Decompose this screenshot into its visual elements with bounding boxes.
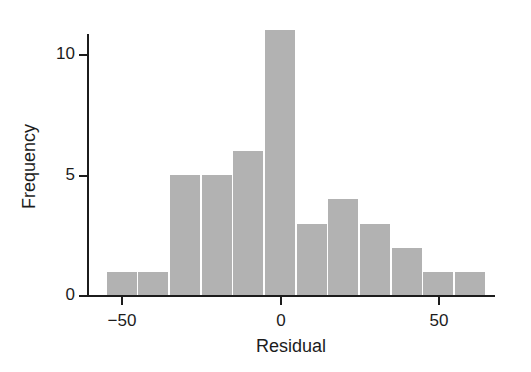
histogram-bar — [107, 272, 137, 296]
x-tick-0 — [280, 297, 282, 305]
histogram-bar — [170, 175, 200, 296]
y-tick-label-5: 5 — [41, 166, 75, 183]
x-axis-line — [87, 295, 495, 297]
y-tick-0 — [79, 295, 87, 297]
histogram-bar — [328, 199, 358, 296]
y-tick-10 — [79, 54, 87, 56]
y-tick-label-0: 0 — [41, 286, 75, 303]
y-tick-5 — [79, 175, 87, 177]
histogram-bar — [360, 224, 390, 296]
x-axis-title: Residual — [87, 336, 495, 357]
histogram-bar — [297, 224, 327, 296]
x-tick-label-50: 50 — [409, 312, 469, 329]
histogram-bar — [455, 272, 485, 296]
histogram-bar — [423, 272, 453, 296]
histogram-bar — [138, 272, 168, 296]
histogram-bar — [265, 30, 295, 296]
x-tick-label-minus-50: −50 — [92, 312, 152, 329]
plot-area: 10 5 0 −50 0 50 Frequency Residual — [0, 0, 531, 372]
histogram-bar — [392, 248, 422, 296]
x-tick-minus-50 — [121, 297, 123, 305]
y-tick-label-10: 10 — [41, 45, 75, 62]
y-axis-line — [87, 34, 89, 297]
x-tick-50 — [438, 297, 440, 305]
histogram-bar — [233, 151, 263, 296]
histogram-figure: 10 5 0 −50 0 50 Frequency Residual — [0, 0, 531, 372]
y-axis-title: Frequency — [19, 87, 40, 247]
histogram-bar — [202, 175, 232, 296]
x-tick-label-0: 0 — [251, 312, 311, 329]
